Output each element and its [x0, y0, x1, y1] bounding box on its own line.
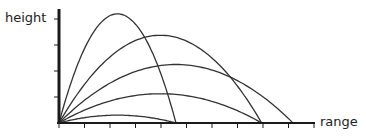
trajectory-60deg: [59, 35, 262, 123]
trajectory-diagram: [0, 0, 366, 138]
trajectory-30deg: [59, 94, 262, 123]
trajectory-15deg: [59, 115, 176, 123]
y-axis-label: height: [5, 10, 46, 25]
x-axis-label: range: [320, 114, 358, 129]
trajectory-curves: [59, 14, 293, 123]
